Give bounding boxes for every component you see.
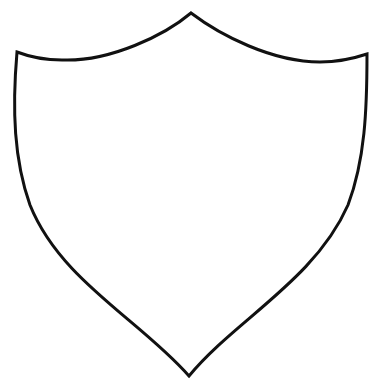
shield-outline xyxy=(15,13,367,376)
shield-icon xyxy=(0,0,379,385)
shield-drawing xyxy=(0,0,379,385)
